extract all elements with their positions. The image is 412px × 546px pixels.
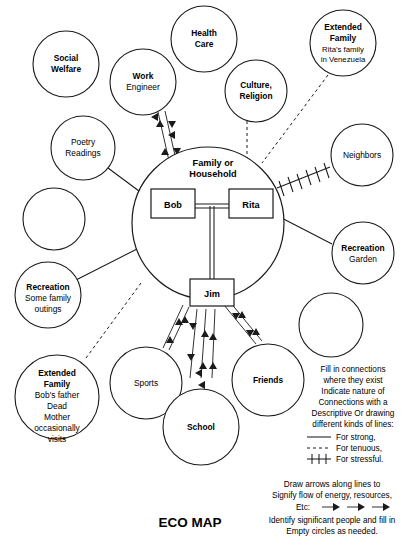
bob-label: Bob (164, 200, 182, 210)
node-friends[interactable]: Friends (232, 344, 304, 416)
ext-rita-label-3: Rita's family (322, 45, 364, 54)
rec-outings-label-3: outings (34, 304, 61, 314)
rec-garden-label-2: Garden (349, 254, 377, 264)
school-label: School (187, 422, 215, 432)
legend-instruction-6: different kinds of lines: (312, 420, 393, 429)
legend-etc-label: Etc: (296, 503, 310, 512)
empty-left-upper-circle[interactable] (23, 188, 85, 250)
flow-jim-to-sports (163, 305, 189, 350)
ext-bob-label-2: Family (44, 379, 71, 389)
node-health-care[interactable]: Health Care (171, 6, 237, 72)
legend-footer2-1: Identify significant people and fill in (269, 516, 396, 525)
legend-footer2-2: Empty circles as needed. (286, 527, 377, 536)
page-title: ECO MAP (158, 515, 221, 530)
rec-outings-label-1: Recreation (26, 282, 69, 292)
legend-hatched-line-icon (307, 454, 331, 464)
node-social-welfare[interactable]: Social Welfare (33, 31, 99, 97)
ext-rita-label-2: Family (330, 33, 357, 43)
ext-bob-label-1: Extended (38, 368, 76, 378)
node-extended-family-rita[interactable]: Extended Family Rita's family in Venezue… (310, 10, 376, 76)
legend-instruction-4: Connections with a (318, 398, 388, 407)
ext-bob-label-6: occasionally (34, 423, 80, 433)
node-school[interactable]: School (163, 389, 239, 465)
node-neighbors[interactable]: Neighbors (331, 124, 393, 186)
culture-label-2: Religion (239, 91, 272, 101)
neighbors-label: Neighbors (343, 150, 381, 160)
legend-instruction-2: where they exist (322, 376, 383, 385)
legend-footer-1: Draw arrows along lines to (284, 480, 381, 489)
jim-label: Jim (204, 289, 220, 299)
legend-instruction-1: Fill in connections (320, 365, 385, 374)
work-label-2: Engineer (126, 82, 160, 92)
ext-bob-label-7: visits (48, 434, 67, 444)
legend-key-tenuous-label: For tenuous, (336, 444, 382, 453)
ext-bob-label-4: Dead (47, 401, 67, 411)
extended-family-rita-circle[interactable] (310, 10, 376, 76)
ext-bob-label-3: Bob's father (35, 390, 80, 400)
social-welfare-label-2: Welfare (51, 64, 81, 74)
eco-map-diagram: Family or Household Bob Rita Jim Social … (0, 0, 412, 546)
empty-right-lower-circle[interactable] (299, 293, 363, 357)
node-culture-religion[interactable]: Culture, Religion (225, 60, 287, 122)
central-family-household[interactable]: Family or Household (132, 147, 284, 299)
node-recreation-outings[interactable]: Recreation Some family outings (15, 262, 81, 328)
node-recreation-garden[interactable]: Recreation Garden (332, 222, 394, 284)
link-recreation-outings-to-family (76, 249, 137, 280)
central-label-line1: Family or (193, 158, 234, 168)
poetry-label-2: Readings (65, 148, 100, 158)
recreation-garden-circle[interactable] (332, 222, 394, 284)
flow-jim-to-school (187, 309, 217, 389)
person-box-bob[interactable]: Bob (151, 189, 195, 218)
rec-outings-label-2: Some family (25, 293, 72, 303)
rita-label: Rita (242, 200, 260, 210)
ext-bob-label-5: Mother (44, 412, 70, 422)
legend-footer-2: Signify flow of energy, resources, (272, 491, 392, 500)
rec-garden-label-1: Recreation (341, 243, 384, 253)
ext-rita-label-1: Extended (324, 22, 362, 32)
legend-key-stressful-label: For stressful. (336, 455, 383, 464)
legend-key-strong-label: For strong, (336, 433, 376, 442)
person-box-jim[interactable]: Jim (190, 279, 234, 306)
health-care-label-2: Care (195, 39, 214, 49)
node-work[interactable]: Work Engineer (110, 49, 176, 115)
node-poetry-readings[interactable]: Poetry Readings (51, 116, 115, 180)
friends-label: Friends (253, 375, 284, 385)
link-poetry-to-family (108, 168, 143, 194)
ext-rita-label-4: in Venezuela (321, 55, 366, 64)
legend-instruction-5: Descriptive Or drawing (312, 409, 395, 418)
health-care-label-1: Health (191, 28, 217, 38)
sports-label: Sports (134, 378, 158, 388)
node-extended-family-bob[interactable]: Extended Family Bob's father Dead Mother… (15, 355, 99, 444)
legend-key-strong: For strong, (307, 433, 376, 442)
central-label-line2: Household (189, 169, 236, 179)
node-empty-right-lower[interactable] (299, 293, 363, 357)
social-welfare-label-1: Social (54, 53, 79, 63)
poetry-label-1: Poetry (71, 137, 96, 147)
legend-arrow-row-icon (322, 503, 390, 511)
link-neighbors-to-family (277, 163, 330, 196)
person-box-rita[interactable]: Rita (229, 189, 273, 218)
link-extended-family-bob-to-family (86, 283, 141, 358)
culture-label-1: Culture, (240, 80, 272, 90)
legend-instruction-3: Indicate nature of (321, 387, 385, 396)
legend-key-tenuous: For tenuous, (307, 444, 382, 453)
work-label-1: Work (133, 71, 154, 81)
node-empty-left-upper[interactable] (23, 188, 85, 250)
legend-key-stressful: For stressful. (307, 454, 383, 464)
